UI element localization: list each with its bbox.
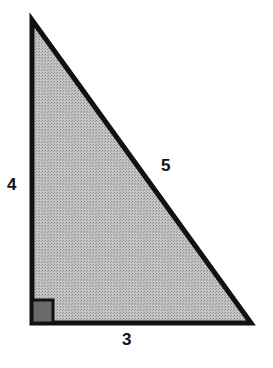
triangle-diagram [0, 0, 273, 368]
triangle-shape [32, 20, 251, 323]
horizontal-leg-label: 3 [122, 330, 131, 350]
right-angle-marker [32, 300, 53, 323]
hypotenuse-label: 5 [161, 156, 170, 176]
vertical-leg-label: 4 [7, 175, 16, 195]
